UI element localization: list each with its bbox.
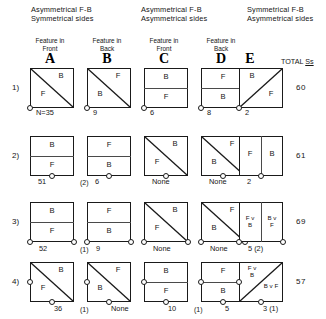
- figure-label: B: [89, 90, 111, 98]
- response-marker-1[interactable]: [84, 239, 90, 245]
- figure-count: 9: [93, 109, 97, 117]
- figure-count: 2: [247, 178, 251, 186]
- figure-label: F: [32, 284, 54, 292]
- row-label-2: 2): [12, 152, 19, 160]
- figure-cell-r4-e[interactable]: F v BB v F3 (1): [239, 262, 283, 302]
- figure-count: None: [153, 245, 171, 253]
- response-marker-1[interactable]: [236, 279, 242, 285]
- response-marker-1[interactable]: [141, 279, 147, 285]
- figure-cell-r1-e[interactable]: BF2: [239, 68, 283, 108]
- response-marker-1[interactable]: [49, 173, 55, 179]
- figure-label: B: [30, 141, 74, 149]
- response-marker-1[interactable]: [84, 279, 90, 285]
- response-marker-1[interactable]: [198, 105, 204, 111]
- response-marker-1[interactable]: [141, 239, 147, 245]
- row-total-2: 61: [281, 152, 321, 160]
- figure-count: None: [111, 305, 129, 313]
- figure-label: B: [203, 224, 225, 232]
- figure-label: B: [164, 140, 186, 148]
- figure-paren-count: (1): [80, 306, 89, 314]
- figure-count: 6: [95, 178, 99, 186]
- figure-cell-r1-b[interactable]: FB9: [87, 68, 131, 108]
- figure-count: None: [209, 178, 227, 186]
- column-caption-a: Feature in Front: [22, 37, 78, 52]
- figure-label: F: [107, 72, 129, 80]
- figure-cell-r2-a[interactable]: BF51(2): [30, 136, 74, 176]
- figure-label: F: [87, 207, 131, 215]
- figure-count: 36: [54, 305, 62, 313]
- response-marker-1[interactable]: [198, 279, 204, 285]
- figure-label: F: [32, 90, 54, 98]
- horizontal-divider: [87, 156, 131, 157]
- figure-count: 8: [207, 109, 211, 117]
- figure-paren-count: (2): [80, 179, 89, 187]
- figure-label: F: [146, 158, 168, 166]
- horizontal-divider: [30, 156, 74, 157]
- response-marker-2[interactable]: [185, 239, 191, 245]
- figure-cell-r3-a[interactable]: BF52(1): [30, 202, 74, 242]
- figure-cell-r2-c[interactable]: BFNone: [144, 136, 188, 176]
- response-marker-1[interactable]: [236, 239, 242, 245]
- figure-cell-r2-b[interactable]: FB6: [87, 136, 131, 176]
- row-label-1: 1): [12, 84, 19, 92]
- figure-cell-r4-a[interactable]: BF36(1): [30, 262, 74, 302]
- response-marker-1[interactable]: [198, 239, 204, 245]
- figure-cell-r3-e[interactable]: F v BB v F5 (2): [239, 202, 283, 242]
- figure-count: 5 (2): [248, 245, 263, 253]
- figure-label: F v B: [241, 265, 263, 278]
- figure-label: F: [144, 93, 188, 101]
- figure-count: 2: [245, 109, 249, 117]
- figure-label: B v F: [259, 283, 283, 290]
- response-marker-1[interactable]: [84, 105, 90, 111]
- figure-count: None: [152, 178, 170, 186]
- figure-label: F: [146, 224, 168, 232]
- figure-count: 10: [168, 305, 176, 313]
- figure-paren-count: (1): [194, 306, 203, 314]
- figure-cell-r1-a[interactable]: BFN=35: [30, 68, 74, 108]
- figure-count: None: [210, 245, 228, 253]
- figure-label: B: [50, 266, 72, 274]
- figure-label: F: [107, 266, 129, 274]
- total-ss-header: TOTAL Ss: [281, 58, 314, 66]
- figure-cell-r4-b[interactable]: FBNone: [87, 262, 131, 302]
- response-marker-1[interactable]: [236, 105, 242, 111]
- figure-cell-r4-c[interactable]: BF10(1): [144, 262, 188, 302]
- response-marker-1[interactable]: [141, 105, 147, 111]
- figure-label: B: [241, 72, 263, 80]
- response-marker-2[interactable]: [128, 239, 134, 245]
- figure-cell-r2-e[interactable]: FB2: [239, 136, 283, 176]
- response-marker-1[interactable]: [258, 173, 264, 179]
- figure-label: F: [30, 227, 74, 235]
- total-ss-header-underline: Ss: [305, 57, 313, 66]
- response-marker-1[interactable]: [27, 105, 33, 111]
- column-letter-a: A: [22, 52, 78, 66]
- figure-label: F: [144, 287, 188, 295]
- figure-label: F v B: [239, 215, 261, 228]
- figure-label: B v F: [261, 215, 283, 228]
- figure-label: B: [50, 72, 72, 80]
- figure-label: F: [259, 90, 283, 98]
- figure-label: F: [87, 141, 131, 149]
- response-marker-1[interactable]: [27, 279, 33, 285]
- response-marker-1[interactable]: [27, 239, 33, 245]
- column-caption-b: Feature in Back: [79, 37, 135, 52]
- response-marker-2[interactable]: [280, 239, 286, 245]
- response-marker-2[interactable]: [71, 239, 77, 245]
- figure-label: B: [87, 227, 131, 235]
- figure-label: B: [203, 158, 225, 166]
- figure-cell-r3-c[interactable]: BFNone: [144, 202, 188, 242]
- group-header-1: Asymmetrical F-B Symmetrical sides: [31, 5, 141, 23]
- figure-label: B: [144, 267, 188, 275]
- figure-paren-count: (1): [80, 246, 89, 254]
- row-total-1: 60: [281, 84, 321, 92]
- response-marker-1[interactable]: [106, 173, 112, 179]
- row-total-4: 57: [281, 278, 321, 286]
- figure-count: 51: [38, 178, 46, 186]
- figure-label: B: [30, 207, 74, 215]
- horizontal-divider: [87, 222, 131, 223]
- figure-cell-r3-b[interactable]: FB9: [87, 202, 131, 242]
- figure-count: 6: [150, 109, 154, 117]
- figure-cell-r1-c[interactable]: BF6: [144, 68, 188, 108]
- column-letter-e: E: [222, 52, 278, 66]
- figure-label: B: [164, 206, 186, 214]
